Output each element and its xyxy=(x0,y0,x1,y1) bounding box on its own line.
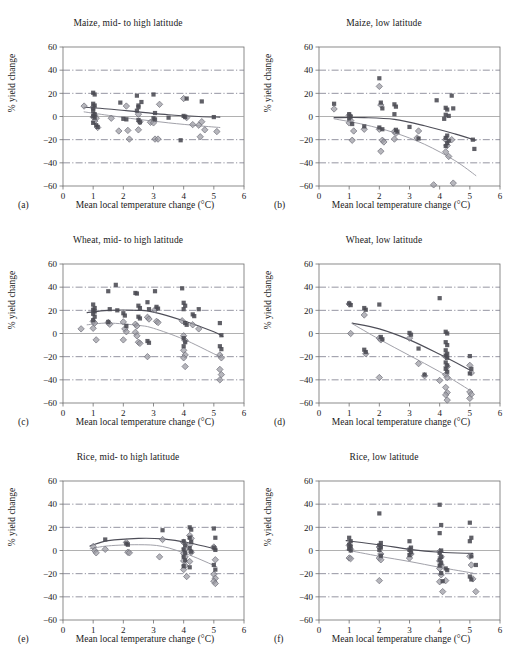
y-axis-label-f: % yield change xyxy=(263,462,273,572)
y-tick-label: 40 xyxy=(48,65,58,75)
data-point-square xyxy=(106,289,110,293)
data-point-square xyxy=(471,138,475,142)
data-point-square xyxy=(444,144,448,148)
data-point-diamond xyxy=(135,127,141,133)
y-tick-label: −40 xyxy=(43,375,58,385)
data-point-square xyxy=(213,536,217,540)
data-point-square xyxy=(380,127,384,131)
y-tick-label: −40 xyxy=(299,592,314,602)
y-tick-label: −20 xyxy=(43,569,58,579)
y-axis-label-d: % yield change xyxy=(263,245,273,355)
data-point-square xyxy=(200,99,204,103)
y-tick-label: −60 xyxy=(299,398,314,408)
data-point-square xyxy=(364,308,368,312)
y-tick-label: 0 xyxy=(309,329,314,339)
data-point-diamond xyxy=(439,588,445,594)
data-point-square xyxy=(445,370,449,374)
y-tick-label: −40 xyxy=(299,158,314,168)
panel-letter-e: (e) xyxy=(18,634,29,644)
y-tick-label: 60 xyxy=(48,259,58,269)
data-point-square xyxy=(416,136,420,140)
y-tick-label: −20 xyxy=(43,352,58,362)
data-point-square xyxy=(439,523,443,527)
data-point-diamond xyxy=(415,128,421,134)
data-point-square xyxy=(445,331,449,335)
data-point-square xyxy=(189,528,193,532)
y-tick-label: −20 xyxy=(43,135,58,145)
y-tick-label: 0 xyxy=(53,112,58,122)
panel-letter-d: (d) xyxy=(274,417,285,427)
trend-line-light xyxy=(90,545,217,567)
data-point-square xyxy=(438,563,442,567)
data-point-square xyxy=(450,94,454,98)
data-point-square xyxy=(123,313,127,317)
data-point-diamond xyxy=(197,134,203,140)
data-point-square xyxy=(438,503,442,507)
data-point-square xyxy=(213,568,217,572)
data-point-square xyxy=(124,324,128,328)
plot-area-b: 01234566040200−20−40−60 xyxy=(256,0,512,217)
y-tick-label: −20 xyxy=(299,569,314,579)
data-point-square xyxy=(180,286,184,290)
data-point-square xyxy=(435,98,439,102)
data-point-diamond xyxy=(93,337,99,343)
data-point-square xyxy=(153,289,157,293)
y-tick-label: 60 xyxy=(304,259,314,269)
data-point-diamond xyxy=(90,325,96,331)
data-point-square xyxy=(93,92,97,96)
data-point-square xyxy=(138,306,142,310)
panel-b: Maize, low latitude01234566040200−20−40−… xyxy=(256,0,512,217)
y-tick-label: −20 xyxy=(299,352,314,362)
data-point-square xyxy=(468,371,472,375)
data-point-square xyxy=(439,571,443,575)
data-point-square xyxy=(197,307,201,311)
data-point-square xyxy=(442,117,446,121)
data-point-diamond xyxy=(436,377,442,383)
data-point-diamond xyxy=(468,562,474,568)
data-point-square xyxy=(349,303,353,307)
data-point-square xyxy=(218,321,222,325)
data-point-square xyxy=(188,565,192,569)
x-axis-label-a: Mean local temperature change (°C) xyxy=(40,200,250,210)
data-point-diamond xyxy=(378,148,384,154)
y-tick-label: 40 xyxy=(48,282,58,292)
panel-f: Rice, low latitude01234566040200−20−40−6… xyxy=(256,434,512,651)
data-point-square xyxy=(147,307,151,311)
panel-letter-f: (f) xyxy=(274,634,284,644)
y-tick-label: 20 xyxy=(304,306,314,316)
data-point-square xyxy=(93,116,97,120)
data-point-square xyxy=(407,553,411,557)
data-point-square xyxy=(379,554,383,558)
data-point-square xyxy=(166,116,170,120)
data-point-diamond xyxy=(391,136,397,142)
data-point-square xyxy=(124,117,128,121)
panel-e: Rice, mid- to high latitude0123456604020… xyxy=(0,434,256,651)
data-point-square xyxy=(189,540,193,544)
data-point-square xyxy=(138,120,142,124)
data-point-diamond xyxy=(349,137,355,143)
data-point-diamond xyxy=(120,337,126,343)
panel-letter-a: (a) xyxy=(18,200,29,210)
y-tick-label: −60 xyxy=(43,615,58,625)
x-axis-label-e: Mean local temperature change (°C) xyxy=(40,634,250,644)
data-point-square xyxy=(135,94,139,98)
data-point-diamond xyxy=(444,397,450,403)
data-point-square xyxy=(147,341,151,345)
data-point-square xyxy=(445,343,449,347)
data-point-square xyxy=(183,543,187,547)
data-point-square xyxy=(377,302,381,306)
data-point-diamond xyxy=(159,536,165,542)
data-point-square xyxy=(349,548,353,552)
data-point-square xyxy=(183,551,187,555)
data-point-diamond xyxy=(144,353,150,359)
data-point-diamond xyxy=(376,83,382,89)
panel-c: Wheat, mid- to high latitude012345660402… xyxy=(0,217,256,434)
data-point-square xyxy=(212,563,216,567)
x-axis-label-f: Mean local temperature change (°C) xyxy=(296,634,506,644)
data-point-diamond xyxy=(202,127,208,133)
y-tick-label: 60 xyxy=(48,42,58,52)
data-point-diamond xyxy=(376,374,382,380)
data-point-diamond xyxy=(430,182,436,188)
y-tick-label: 20 xyxy=(304,523,314,533)
data-point-square xyxy=(135,291,139,295)
